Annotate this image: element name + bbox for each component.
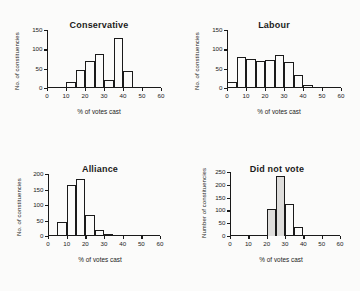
- x-axis-tick-label: 10: [245, 241, 252, 247]
- x-axis-tick: [104, 88, 105, 91]
- y-axis-label: No. of constituencies: [16, 176, 22, 238]
- x-axis-tick: [48, 236, 49, 239]
- plot-area: 0501001502002500102030405060: [230, 172, 340, 236]
- y-axis-tick: [227, 198, 230, 199]
- x-axis-tick-label: 60: [337, 241, 344, 247]
- x-axis-label: % of votes cast: [0, 256, 180, 263]
- x-axis-tick-label: 60: [338, 93, 345, 99]
- y-axis-label: No. of constituencies: [194, 31, 200, 91]
- x-axis-tick: [303, 236, 304, 239]
- x-axis-tick: [123, 236, 124, 239]
- x-axis-tick: [322, 236, 323, 239]
- x-axis-tick: [267, 236, 268, 239]
- x-axis-tick: [322, 88, 323, 91]
- x-axis-tick-label: 30: [101, 241, 108, 247]
- y-axis-tick-label: 200: [215, 182, 225, 188]
- x-axis-tick: [67, 236, 68, 239]
- histogram-bar: [76, 70, 86, 88]
- histogram-bar: [284, 62, 294, 88]
- x-axis-tick-label: 50: [318, 241, 325, 247]
- y-axis-tick-label: 200: [33, 171, 43, 177]
- histogram-bar: [104, 80, 114, 88]
- x-axis-label: % of votes cast: [180, 256, 360, 263]
- histogram-bar: [237, 57, 247, 88]
- x-axis-tick-label: 10: [63, 93, 70, 99]
- y-axis-tick-label: 50: [37, 217, 44, 223]
- y-axis-tick: [44, 69, 47, 70]
- histogram-bar: [303, 235, 312, 236]
- y-axis-tick-label: 50: [36, 66, 43, 72]
- y-axis-tick: [227, 223, 230, 224]
- histogram-bar: [113, 235, 122, 236]
- y-axis-tick: [224, 49, 227, 50]
- y-axis-tick-label: 150: [212, 27, 222, 33]
- y-axis-tick: [45, 190, 48, 191]
- x-axis-tick-label: 60: [158, 93, 165, 99]
- x-axis-tick: [227, 88, 228, 91]
- y-axis-tick-label: 50: [219, 220, 226, 226]
- x-axis-tick-label: 30: [101, 93, 108, 99]
- y-axis-tick: [45, 205, 48, 206]
- x-axis-tick-label: 60: [157, 241, 164, 247]
- x-axis-tick: [141, 236, 142, 239]
- x-axis-tick-label: 0: [45, 93, 48, 99]
- plot-area: 0501001500102030405060: [227, 30, 341, 88]
- y-axis-tick: [227, 210, 230, 211]
- histogram-bar: [76, 179, 85, 236]
- histogram-bar: [258, 235, 267, 236]
- chart-panel-2: Labour0501001500102030405060% of votes c…: [180, 0, 360, 145]
- y-axis-line: [48, 174, 49, 236]
- histogram-bar: [285, 204, 294, 236]
- x-axis-tick: [85, 236, 86, 239]
- histogram-bar: [267, 209, 276, 236]
- histogram-bar: [48, 235, 57, 236]
- y-axis-line: [47, 30, 48, 88]
- histogram-bar: [256, 61, 266, 88]
- y-axis-tick: [224, 30, 227, 31]
- histogram-bar: [67, 185, 76, 236]
- y-axis-line: [227, 30, 228, 88]
- x-axis-tick: [303, 88, 304, 91]
- chart-panel-4: Did not vote0501001502002500102030405060…: [180, 146, 360, 291]
- histogram-bar: [303, 85, 313, 88]
- x-axis-tick-label: 50: [139, 93, 146, 99]
- x-axis-tick-label: 30: [282, 241, 289, 247]
- x-axis-tick-label: 10: [63, 241, 70, 247]
- x-axis-tick-label: 0: [228, 241, 231, 247]
- plot-area: 0501001502000102030405060: [48, 174, 160, 236]
- x-axis-tick: [160, 236, 161, 239]
- histogram-bar: [294, 227, 303, 236]
- x-axis-tick-label: 50: [138, 241, 145, 247]
- y-axis-tick-label: 150: [32, 27, 42, 33]
- histogram-bar: [123, 71, 133, 88]
- x-axis-tick: [248, 236, 249, 239]
- x-axis-tick: [265, 88, 266, 91]
- y-axis-tick-label: 100: [215, 207, 225, 213]
- chart-panel-3: Alliance0501001502000102030405060% of vo…: [0, 146, 180, 291]
- histogram-bar: [276, 176, 285, 236]
- x-axis-tick: [230, 236, 231, 239]
- y-axis-tick-label: 100: [33, 202, 43, 208]
- y-axis-tick: [227, 172, 230, 173]
- y-axis-line: [230, 172, 231, 236]
- x-axis-tick-label: 50: [319, 93, 326, 99]
- chart-title: Conservative: [0, 20, 180, 30]
- x-axis-tick: [285, 236, 286, 239]
- y-axis-tick: [44, 49, 47, 50]
- chart-panel-1: Conservative0501001500102030405060% of v…: [0, 0, 180, 145]
- x-axis-tick: [341, 88, 342, 91]
- x-axis-tick: [104, 236, 105, 239]
- histogram-bar: [246, 59, 256, 88]
- x-axis-tick-label: 30: [281, 93, 288, 99]
- histogram-bar: [95, 230, 104, 236]
- histogram-bar: [66, 82, 76, 88]
- histogram-bar: [294, 75, 304, 88]
- x-axis-tick-label: 40: [300, 93, 307, 99]
- x-axis-tick-label: 40: [120, 93, 127, 99]
- y-axis-tick-label: 50: [216, 66, 223, 72]
- y-axis-tick-label: 0: [222, 233, 225, 239]
- x-axis-tick-label: 20: [263, 241, 270, 247]
- histogram-bar: [57, 222, 66, 236]
- x-axis-tick: [284, 88, 285, 91]
- x-axis-tick-label: 40: [119, 241, 126, 247]
